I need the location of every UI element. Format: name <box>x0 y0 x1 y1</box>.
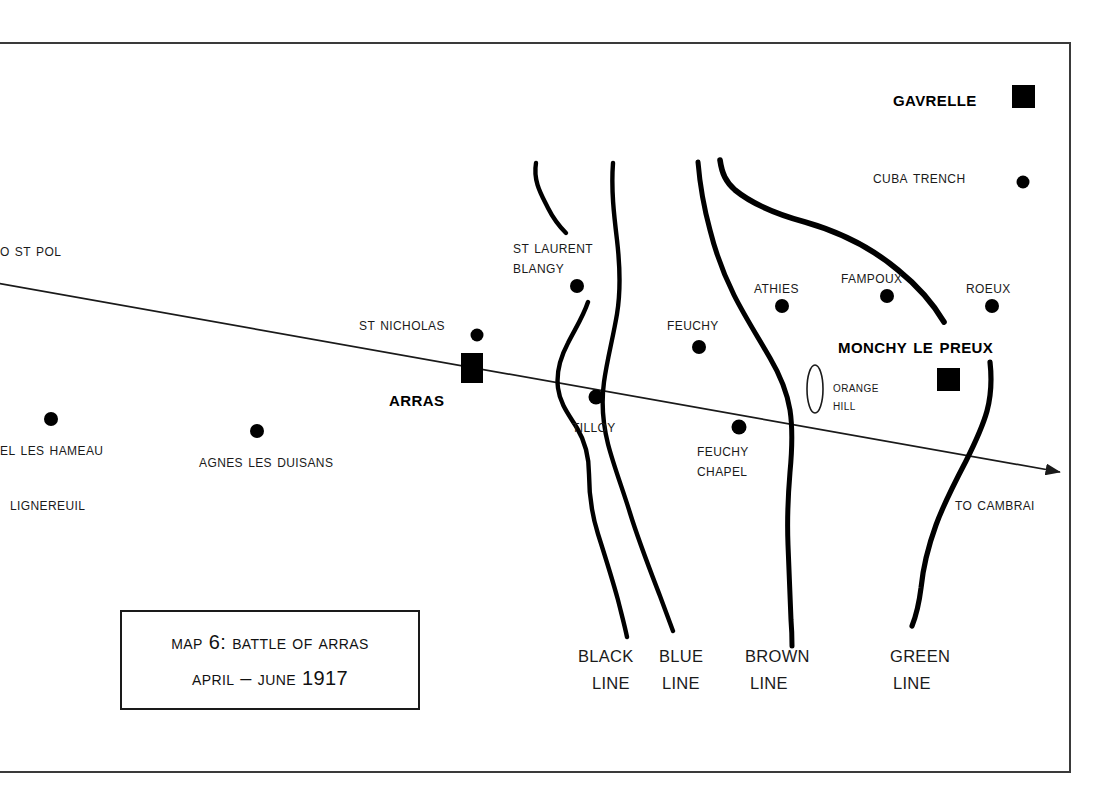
map-canvas: Gavrelle Cuba Trench St Laurent Blangy S… <box>0 0 1113 804</box>
dot-feuchy-chapel <box>732 420 747 435</box>
orange-hill-ellipse <box>807 365 823 413</box>
dot-agnes-les-duisans <box>250 424 264 438</box>
label-blue-line-2: LINE <box>662 674 700 692</box>
arras-cambrai-road <box>0 283 1060 472</box>
map-title-box: Map 6: Battle of Arras April – June 1917 <box>120 610 420 710</box>
label-roeux: Roeux <box>966 278 1011 297</box>
label-st-laurent: St Laurent <box>513 238 593 257</box>
label-lignereuil: Lignereuil <box>10 495 85 514</box>
label-feuchy: Feuchy <box>667 315 719 334</box>
label-green-line-1: GREEN <box>890 647 950 665</box>
square-gavrelle <box>1012 85 1035 108</box>
label-blue-line-1: BLUE <box>659 647 703 665</box>
map-title-line-2: April – June 1917 <box>192 667 348 689</box>
dot-st-nicholas <box>471 329 484 342</box>
square-monchy-le-preux <box>937 368 960 391</box>
dot-roeux <box>985 299 999 313</box>
label-to-st-pol: o St Pol <box>0 241 61 260</box>
label-agnes-les-duisans: Agnes Les Duisans <box>199 452 333 471</box>
label-gavrelle: Gavrelle <box>893 87 977 111</box>
label-el-les-hameau: el Les Hameau <box>0 440 103 459</box>
dot-cuba-trench <box>1017 176 1030 189</box>
label-to-cambrai: To Cambrai <box>955 495 1035 514</box>
label-black-line-2: LINE <box>592 674 630 692</box>
label-cuba-trench: Cuba Trench <box>873 168 965 187</box>
label-feuchy-chapel-2: Chapel <box>697 461 747 480</box>
label-feuchy-chapel-1: Feuchy <box>697 441 749 460</box>
label-orange-hill-1: Orange <box>833 380 879 396</box>
black-line-north-segment <box>535 163 566 233</box>
label-brown-line-1: BROWN <box>745 647 810 665</box>
label-green-line-2: LINE <box>893 674 931 692</box>
label-orange-hill-2: Hill <box>833 398 856 414</box>
label-brown-line-2: LINE <box>750 674 788 692</box>
dot-st-laurent-blangy <box>570 279 584 293</box>
square-arras <box>461 353 483 383</box>
label-black-line-1: BLACK <box>578 647 634 665</box>
dot-tilloy <box>589 390 604 405</box>
brown-line <box>698 162 792 646</box>
map-title-line-1: Map 6: Battle of Arras <box>171 631 369 653</box>
dot-el-les-hameau <box>44 412 58 426</box>
label-athies: Athies <box>754 278 799 297</box>
dot-athies <box>775 299 789 313</box>
label-monchy-le-preux: Monchy Le Preux <box>838 334 993 358</box>
label-blangy: Blangy <box>513 258 564 277</box>
green-line <box>912 362 991 626</box>
label-fampoux: Fampoux <box>841 268 902 287</box>
dot-fampoux <box>880 289 894 303</box>
label-tilloy: Tilloy <box>572 417 616 436</box>
label-arras: Arras <box>389 387 444 411</box>
dot-feuchy <box>692 340 706 354</box>
label-st-nicholas: St Nicholas <box>359 315 445 334</box>
